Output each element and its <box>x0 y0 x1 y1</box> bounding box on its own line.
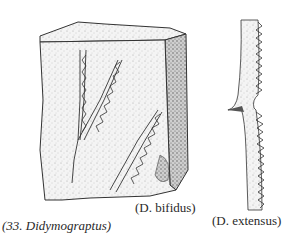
figure-caption: (33. Didymograptus) <box>2 218 111 234</box>
rock-slab <box>40 22 188 200</box>
graptolite-extensus <box>227 20 264 210</box>
label-d-extensus: (D. extensus) <box>212 213 281 229</box>
label-d-bifidus: (D. bifidus) <box>135 200 196 216</box>
